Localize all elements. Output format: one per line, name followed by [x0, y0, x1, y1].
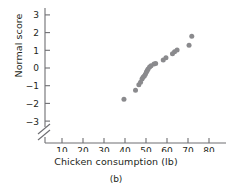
normal-probability-plot-figure: −3−2−101231020304050607080 Normal score …: [0, 0, 232, 190]
y-axis-tick-label: 1: [33, 46, 39, 56]
y-axis-tick-label: −1: [26, 81, 39, 91]
data-point: [175, 47, 180, 52]
y-axis-tick-label: −3: [26, 117, 39, 127]
y-axis-label: Normal score: [13, 4, 24, 88]
x-axis-tick-label: 80: [203, 146, 215, 152]
y-axis-tick-label: 3: [33, 10, 39, 20]
data-point: [189, 34, 194, 39]
data-point: [153, 61, 158, 66]
data-point: [121, 97, 126, 102]
scatter-plot-canvas: −3−2−101231020304050607080: [0, 0, 232, 152]
data-point: [187, 43, 192, 48]
x-axis-tick-label: 60: [161, 146, 173, 152]
x-axis-label: Chicken consumption (lb): [0, 156, 232, 167]
x-axis-tick-label: 40: [119, 146, 131, 152]
axis-break-mark: [38, 124, 50, 134]
y-axis-tick-label: 0: [33, 63, 39, 73]
y-axis-tick-label: −2: [26, 99, 39, 109]
x-axis-tick-label: 50: [140, 146, 152, 152]
data-point: [163, 55, 168, 60]
data-point: [133, 88, 138, 93]
x-axis-tick-label: 20: [77, 146, 89, 152]
x-axis-tick-label: 70: [182, 146, 194, 152]
figure-caption: (b): [0, 174, 232, 184]
x-axis-tick-label: 30: [98, 146, 110, 152]
y-axis-tick-label: 2: [33, 28, 39, 38]
x-axis-tick-label: 10: [56, 146, 68, 152]
axis-break-mark: [38, 130, 50, 140]
